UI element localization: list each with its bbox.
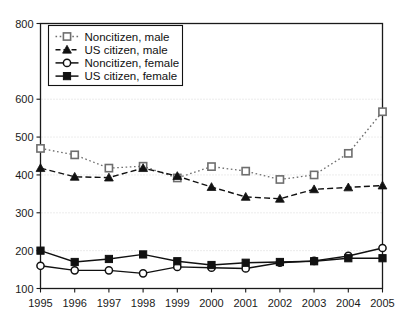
data-point-marker	[242, 259, 249, 266]
data-point-marker	[71, 267, 78, 274]
legend-label: Noncitizen, male	[85, 31, 170, 43]
data-point-marker	[379, 255, 386, 262]
chart-legend: Noncitizen, maleUS citizen, maleNoncitiz…	[49, 26, 183, 86]
x-axis-tick-label: 1995	[28, 297, 52, 309]
data-point-marker	[311, 258, 318, 265]
x-axis-tick-label: 1998	[131, 297, 155, 309]
chart-canvas: 100200300400500600800 199519961997199819…	[0, 0, 398, 321]
legend-label: US citizen, female	[85, 70, 178, 82]
data-point-marker	[105, 165, 112, 172]
data-point-marker	[140, 251, 147, 258]
data-point-marker	[36, 164, 45, 172]
data-point-marker	[105, 255, 112, 262]
data-point-marker	[311, 171, 318, 178]
legend-label: US citizen, male	[85, 44, 168, 56]
data-point-marker	[37, 145, 44, 152]
data-point-marker	[174, 258, 181, 265]
data-point-marker	[37, 247, 44, 254]
data-point-marker	[140, 270, 147, 277]
data-series-group	[36, 108, 387, 277]
gridlines-group	[42, 99, 382, 250]
x-axis-tick-label: 2001	[233, 297, 257, 309]
data-point-marker	[276, 176, 283, 183]
x-axis-tick-label: 2003	[302, 297, 326, 309]
data-point-marker	[105, 267, 112, 274]
line-chart: 100200300400500600800 199519961997199819…	[0, 0, 398, 321]
data-point-marker	[379, 108, 386, 115]
data-point-marker	[242, 168, 249, 175]
y-axis-tick-label: 600	[15, 93, 33, 105]
data-point-marker	[345, 150, 352, 157]
y-axis-labels-group: 100200300400500600800	[15, 18, 33, 295]
data-point-marker	[208, 261, 215, 268]
legend-label: Noncitizen, female	[85, 57, 180, 69]
x-axis-tick-label: 1999	[165, 297, 189, 309]
data-point-marker	[63, 33, 70, 40]
data-point-marker	[208, 163, 215, 170]
x-axis-tick-label: 1997	[97, 297, 121, 309]
y-axis-tick-label: 200	[15, 245, 33, 257]
x-axis-tick-label: 1996	[62, 297, 86, 309]
data-point-marker	[71, 151, 78, 158]
y-axis-tick-label: 100	[15, 283, 33, 295]
y-axis-tick-label: 500	[15, 131, 33, 143]
x-axis-tick-label: 2005	[370, 297, 394, 309]
x-axis-tick-label: 2000	[199, 297, 223, 309]
data-point-marker	[207, 183, 216, 191]
y-axis-tick-label: 800	[15, 18, 33, 30]
series-noncitizen-male	[37, 108, 386, 183]
data-point-marker	[379, 244, 386, 251]
y-axis-tick-label: 300	[15, 207, 33, 219]
x-axis-tick-label: 2002	[268, 297, 292, 309]
data-point-marker	[345, 255, 352, 262]
data-point-marker	[71, 258, 78, 265]
data-point-marker	[37, 262, 44, 269]
data-point-marker	[276, 258, 283, 265]
data-point-marker	[63, 59, 70, 66]
data-point-marker	[63, 73, 70, 80]
data-point-marker	[310, 185, 319, 193]
x-axis-labels-group: 1995199619971998199920002001200220032004…	[28, 297, 394, 309]
data-point-marker	[378, 181, 387, 189]
x-axis-tick-label: 2004	[336, 297, 360, 309]
y-axis-tick-label: 400	[15, 169, 33, 181]
